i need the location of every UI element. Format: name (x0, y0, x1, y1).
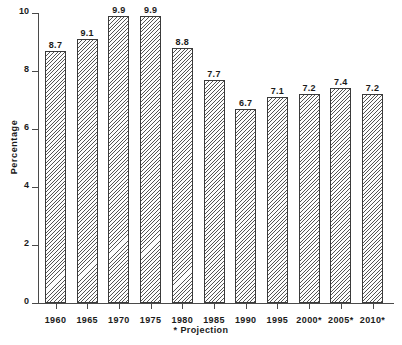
x-axis-tick (182, 303, 183, 309)
bar: 7.1 (267, 97, 288, 303)
bar-value-label: 9.9 (144, 5, 157, 15)
x-axis-tick (56, 303, 57, 309)
y-axis-tick: 0 (32, 303, 38, 304)
x-axis-tick (87, 303, 88, 309)
x-axis-tick-label: 1980 (171, 315, 193, 325)
x-axis-tick (119, 303, 120, 309)
x-axis-tick-label: 1970 (108, 315, 130, 325)
bar-value-label: 6.7 (239, 98, 252, 108)
y-axis-tick: 8 (32, 71, 38, 72)
x-axis-tick (277, 303, 278, 309)
bar: 9.9 (140, 16, 161, 303)
x-axis-tick (214, 303, 215, 309)
plot-area: 0246810 19601965197019751980198519901995… (38, 13, 394, 303)
x-axis-tick (373, 303, 374, 309)
bar: 7.7 (204, 80, 225, 303)
y-axis-tick: 10 (32, 13, 38, 14)
y-axis-tick-label: 10 (19, 6, 29, 16)
y-axis-tick-label: 8 (24, 64, 29, 74)
bar-value-label: 7.4 (334, 77, 347, 87)
chart-footnote: * Projection (0, 325, 402, 335)
x-axis-tick-label: 1995 (267, 315, 289, 325)
x-axis-tick-label: 1985 (203, 315, 225, 325)
x-axis-tick-label: 2000* (296, 315, 322, 325)
bar: 7.2 (362, 94, 383, 303)
bar: 8.8 (172, 48, 193, 303)
y-axis-tick-label: 4 (24, 180, 29, 190)
bar-value-label: 7.2 (366, 83, 379, 93)
y-axis-label: Percentage (9, 107, 19, 187)
x-axis-tick-label: 1990 (235, 315, 257, 325)
y-axis-tick: 4 (32, 187, 38, 188)
x-axis-tick-label: 2005* (328, 315, 354, 325)
y-axis-tick-label: 0 (24, 296, 29, 306)
bar: 6.7 (235, 109, 256, 303)
x-axis-tick-label: 1965 (76, 315, 98, 325)
chart-page: Percentage 0246810 196019651970197519801… (0, 0, 402, 345)
y-axis-tick: 2 (32, 245, 38, 246)
bar-value-label: 7.7 (207, 69, 220, 79)
y-axis-line (38, 13, 39, 304)
x-axis-tick (151, 303, 152, 309)
bar: 7.2 (299, 94, 320, 303)
bar: 7.4 (330, 88, 351, 303)
x-axis-tick-label: 1975 (140, 315, 162, 325)
x-axis-tick (341, 303, 342, 309)
bar-value-label: 7.2 (302, 83, 315, 93)
x-axis-tick (246, 303, 247, 309)
bar: 8.7 (45, 51, 66, 303)
x-axis-tick-label: 1960 (45, 315, 67, 325)
bar-value-label: 9.1 (80, 28, 93, 38)
y-axis-tick-label: 6 (24, 122, 29, 132)
y-axis-tick: 6 (32, 129, 38, 130)
x-axis-tick-label: 2010* (360, 315, 386, 325)
bar-value-label: 7.1 (271, 86, 284, 96)
bar: 9.1 (77, 39, 98, 303)
bar-value-label: 8.8 (176, 37, 189, 47)
bar-value-label: 9.9 (112, 5, 125, 15)
bar-value-label: 8.7 (49, 40, 62, 50)
y-axis-tick-label: 2 (24, 238, 29, 248)
bar: 9.9 (108, 16, 129, 303)
x-axis-tick (309, 303, 310, 309)
